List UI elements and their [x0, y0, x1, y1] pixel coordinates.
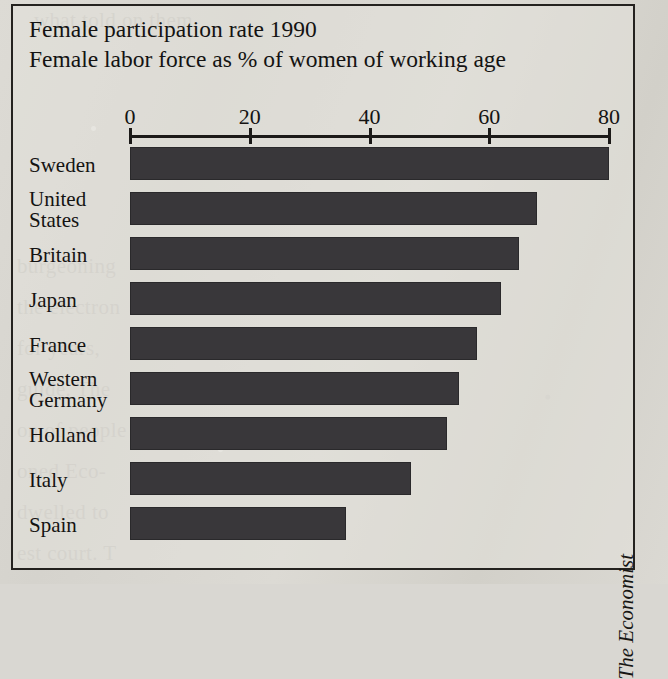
bar [130, 237, 519, 270]
bar-row-label: UnitedStates [29, 189, 129, 231]
x-axis-tick-label: 60 [478, 104, 500, 130]
bar-row: Britain [13, 232, 637, 277]
bar [130, 372, 459, 405]
bar-row: WesternGermany [13, 367, 637, 412]
bar-row-label: Holland [29, 423, 129, 446]
bar [130, 417, 447, 450]
chart-frame: Female participation rate 1990 Female la… [11, 4, 635, 570]
x-axis-tick-label: 80 [598, 104, 620, 130]
x-axis-tick-label: 0 [125, 104, 136, 130]
source-credit: The Economist [614, 554, 639, 679]
bar [130, 462, 411, 495]
bar-row-label-line2: Germany [29, 390, 129, 411]
chart-subtitle: Female labor force as % of women of work… [29, 44, 619, 74]
chart-title: Female participation rate 1990 [29, 14, 619, 44]
bar [130, 327, 477, 360]
bar-row: France [13, 322, 637, 367]
bar-row-label: Sweden [29, 153, 129, 176]
chart-title-block: Female participation rate 1990 Female la… [29, 14, 619, 74]
bar-row-label-line1: United [29, 189, 129, 210]
x-axis-tick-label: 20 [239, 104, 261, 130]
bar-row-label-line2: States [29, 210, 129, 231]
bar [130, 192, 537, 225]
bar-row-label: Britain [29, 243, 129, 266]
bar [130, 147, 609, 180]
bar-row: Sweden [13, 142, 637, 187]
bar-row-label: France [29, 333, 129, 356]
bar-row-label: Italy [29, 468, 129, 491]
bar [130, 282, 501, 315]
x-axis-tick-label: 40 [359, 104, 381, 130]
bar-row: Holland [13, 412, 637, 457]
bar [130, 507, 346, 540]
bar-row: Japan [13, 277, 637, 322]
bar-row-label-line1: Western [29, 369, 129, 390]
bar-row-label: WesternGermany [29, 369, 129, 411]
bar-row: Italy [13, 457, 637, 502]
bar-row-label: Japan [29, 288, 129, 311]
bar-row: Spain [13, 502, 637, 547]
bar-row-label: Spain [29, 513, 129, 536]
bar-row: UnitedStates [13, 187, 637, 232]
bar-rows: SwedenUnitedStatesBritainJapanFranceWest… [13, 142, 637, 547]
